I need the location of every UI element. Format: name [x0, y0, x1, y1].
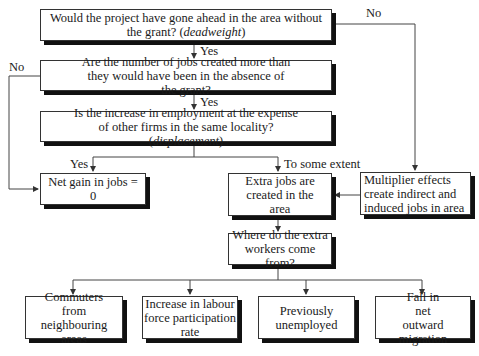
deadweight-term: deadweight	[184, 25, 242, 39]
deadweight-question: Would the project have gone ahead in the…	[40, 9, 332, 41]
source-text: Previously unemployed	[273, 304, 340, 332]
source-participation: Increase in labour force participation r…	[142, 296, 238, 339]
source-text: Commuters from neighbouring areas	[34, 290, 114, 346]
edge-label-yes-3: Yes	[70, 157, 88, 172]
source-text: Increase in labour force participation r…	[143, 297, 237, 339]
displacement-term: displacement	[153, 134, 219, 148]
source-migration: Fall in net outward migration	[375, 296, 471, 339]
edge-label-no-left: No	[9, 60, 24, 75]
extra-jobs-text: Extra jobs are created in the area	[237, 174, 323, 216]
displacement-question: Is the increase in employment at the exp…	[40, 111, 332, 142]
additionality-question: Are the number of jobs created more than…	[40, 60, 332, 91]
source-text: Fall in net outward migration	[398, 290, 448, 346]
multiplier-text: Multiplier effects create indirect and i…	[364, 173, 467, 215]
extra-jobs-box: Extra jobs are created in the area	[228, 173, 332, 216]
edge-label-no-right: No	[366, 6, 381, 21]
displacement-text: Is the increase in employment at the exp…	[74, 106, 298, 134]
where-workers-text: Where do the extra workers come from?	[232, 228, 328, 270]
source-unemployed: Previously unemployed	[258, 296, 355, 339]
net-gain-zero-box: Net gain in jobs = 0	[40, 173, 146, 205]
multiplier-box: Multiplier effects create indirect and i…	[360, 172, 471, 215]
edge-label-yes-1: Yes	[200, 44, 218, 59]
edge-label-yes-2: Yes	[200, 95, 218, 110]
net-gain-text: Net gain in jobs = 0	[44, 175, 142, 203]
source-commuters: Commuters from neighbouring areas	[25, 296, 123, 339]
where-workers-box: Where do the extra workers come from?	[228, 233, 332, 265]
additionality-text: Are the number of jobs created more than…	[81, 55, 291, 97]
edge-label-some-extent: To some extent	[284, 157, 360, 172]
